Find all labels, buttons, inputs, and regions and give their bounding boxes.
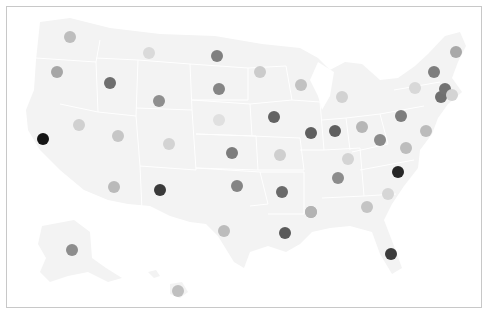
state-dot-ca[interactable]: [37, 133, 49, 145]
state-dot-il[interactable]: [305, 127, 317, 139]
state-dot-vt[interactable]: [428, 66, 440, 78]
state-dot-mo[interactable]: [274, 149, 286, 161]
state-dot-mt[interactable]: [143, 47, 155, 59]
state-dot-me[interactable]: [450, 46, 462, 58]
state-dot-tx[interactable]: [218, 225, 230, 237]
state-dot-ar[interactable]: [276, 186, 288, 198]
state-dot-ia[interactable]: [268, 111, 280, 123]
state-dot-co[interactable]: [163, 138, 175, 150]
state-dot-ks[interactable]: [226, 147, 238, 159]
state-dot-id[interactable]: [104, 77, 116, 89]
state-dot-ri[interactable]: [446, 89, 458, 101]
state-dot-in[interactable]: [329, 125, 341, 137]
state-dot-mi[interactable]: [336, 91, 348, 103]
state-dot-or[interactable]: [51, 66, 63, 78]
state-dot-nv[interactable]: [73, 119, 85, 131]
state-dot-ak[interactable]: [66, 244, 78, 256]
state-dot-ga[interactable]: [361, 201, 373, 213]
lower48-landmass: [26, 18, 466, 274]
alaska-landmass: [38, 220, 122, 282]
state-dot-wi[interactable]: [295, 79, 307, 91]
state-dot-wy[interactable]: [153, 95, 165, 107]
us-map: [0, 0, 489, 314]
state-dot-sd[interactable]: [213, 83, 225, 95]
state-dot-va[interactable]: [400, 142, 412, 154]
state-dot-wa[interactable]: [64, 31, 76, 43]
state-dot-sc[interactable]: [382, 188, 394, 200]
state-dot-ky[interactable]: [342, 153, 354, 165]
state-dot-nc[interactable]: [392, 166, 404, 178]
state-dot-az[interactable]: [108, 181, 120, 193]
state-dot-nd[interactable]: [211, 50, 223, 62]
state-dot-wv[interactable]: [374, 134, 386, 146]
state-dot-ny[interactable]: [409, 82, 421, 94]
state-dot-md[interactable]: [420, 125, 432, 137]
state-dot-oh[interactable]: [356, 121, 368, 133]
state-dot-mn[interactable]: [254, 66, 266, 78]
state-dot-pa[interactable]: [395, 110, 407, 122]
state-dot-al[interactable]: [305, 206, 317, 218]
state-dot-ok[interactable]: [231, 180, 243, 192]
state-dot-hi[interactable]: [172, 285, 184, 297]
state-dot-la[interactable]: [279, 227, 291, 239]
state-dot-fl[interactable]: [385, 248, 397, 260]
state-dot-tn[interactable]: [332, 172, 344, 184]
state-dot-ut[interactable]: [112, 130, 124, 142]
state-dot-ne[interactable]: [213, 114, 225, 126]
state-dot-nm[interactable]: [154, 184, 166, 196]
